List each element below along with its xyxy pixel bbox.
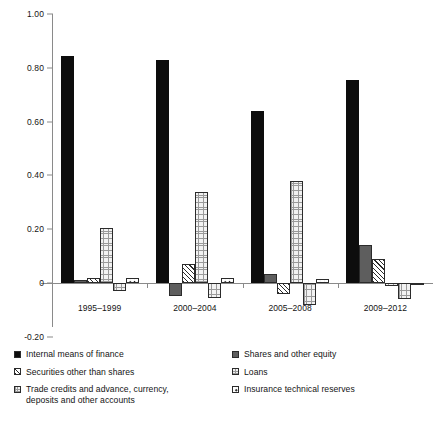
legend-item-label: Loans xyxy=(244,367,268,378)
x-category-label: 1995–1999 xyxy=(52,304,147,313)
y-tick-label: 0.60 xyxy=(0,117,52,126)
bar xyxy=(87,278,100,283)
bar xyxy=(251,111,264,283)
bar xyxy=(113,283,126,291)
legend-item: Shares and other equity xyxy=(232,349,424,360)
legend-item-label: Trade credits and advance, currency, dep… xyxy=(26,384,169,405)
bar xyxy=(169,283,182,296)
legend-column-right: Shares and other equityLoansInsurance te… xyxy=(232,349,424,425)
y-tick-label: 0.40 xyxy=(0,171,52,180)
bar xyxy=(290,181,303,283)
x-category-label: 2005–2008 xyxy=(243,304,338,313)
legend-item: Trade credits and advance, currency, dep… xyxy=(14,384,232,405)
bar-group xyxy=(147,0,242,340)
x-category-label: 2000–2004 xyxy=(147,304,242,313)
solid-black-swatch xyxy=(14,351,21,358)
light-outline-swatch xyxy=(232,368,239,375)
bar xyxy=(195,192,208,283)
y-tick-label: 1.00 xyxy=(0,10,52,19)
bar xyxy=(385,283,398,286)
plot-area: 1.000.800.600.400.200-0.20 1995–19992000… xyxy=(0,0,438,340)
legend-item: Insurance technical reserves xyxy=(232,384,424,395)
bar xyxy=(208,283,221,298)
chart-legend: Internal means of financeSecurities othe… xyxy=(14,349,424,425)
bar xyxy=(221,278,234,283)
bar xyxy=(126,278,139,283)
bar xyxy=(359,245,372,283)
legend-item-label: Internal means of finance xyxy=(26,349,124,360)
bar xyxy=(346,80,359,283)
solid-gray-swatch xyxy=(232,351,239,358)
y-tick-label: -0.20 xyxy=(0,333,52,342)
bar xyxy=(182,264,195,283)
bar xyxy=(264,274,277,283)
diagonal-hatch-swatch xyxy=(14,368,21,375)
bar xyxy=(74,280,87,283)
legend-item: Securities other than shares xyxy=(14,367,232,378)
bar xyxy=(277,283,290,294)
y-tick-label: 0 xyxy=(0,279,52,288)
dot-box-swatch xyxy=(232,386,239,393)
legend-item-label: Shares and other equity xyxy=(244,349,336,360)
y-tick-label: 0.80 xyxy=(0,64,52,73)
bar xyxy=(61,56,74,283)
bar xyxy=(100,228,113,283)
bar-chart-figure: 1.000.800.600.400.200-0.20 1995–19992000… xyxy=(0,0,438,436)
legend-item-label: Securities other than shares xyxy=(26,367,134,378)
legend-item: Loans xyxy=(232,367,424,378)
bar-group xyxy=(338,0,433,340)
bar xyxy=(156,60,169,283)
bar xyxy=(316,279,329,283)
fine-grid-swatch xyxy=(14,386,21,393)
bar xyxy=(303,283,316,305)
x-category-label: 2009–2012 xyxy=(338,304,433,313)
bar xyxy=(411,283,424,285)
bar-group xyxy=(52,0,147,340)
bar xyxy=(398,283,411,299)
y-tick-label: 0.20 xyxy=(0,225,52,234)
legend-item: Internal means of finance xyxy=(14,349,232,360)
legend-column-left: Internal means of financeSecurities othe… xyxy=(14,349,232,425)
legend-item-label: Insurance technical reserves xyxy=(244,384,355,395)
bar-groups xyxy=(52,0,433,340)
bar-group xyxy=(243,0,338,340)
bar xyxy=(372,259,385,283)
